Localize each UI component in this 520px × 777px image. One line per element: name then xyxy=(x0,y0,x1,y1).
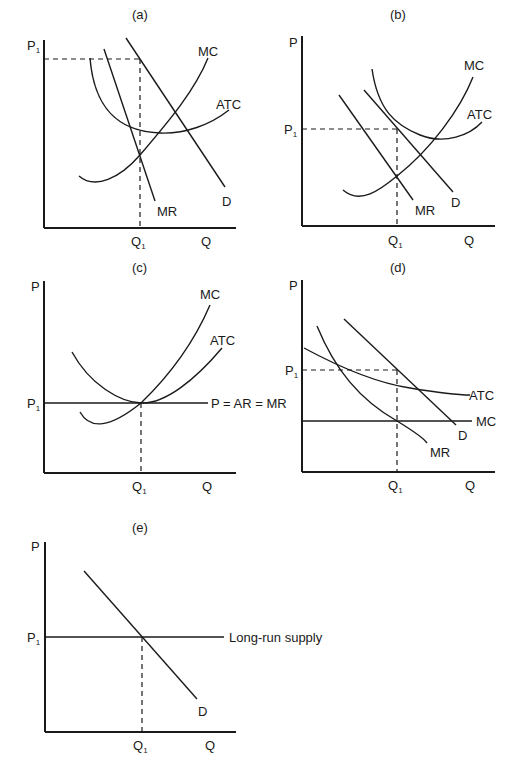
panel-d-demand-curve xyxy=(344,319,456,425)
panel-c-title: (c) xyxy=(132,260,147,275)
panel-d-q-label: Q xyxy=(465,478,475,493)
panel-c-mc-curve xyxy=(80,305,210,424)
panel-a-p1-label: P1 xyxy=(27,38,41,55)
panel-b: (b) P P1 MR D ATC MC Q1 Q xyxy=(284,7,495,250)
panel-a: (a) P1 D MR ATC MC Q1 Q xyxy=(27,7,241,251)
panel-a-atc-label: ATC xyxy=(216,97,241,112)
panel-a-title: (a) xyxy=(132,7,148,22)
market-structures-figure: (a) P1 D MR ATC MC Q1 Q (b) P P1 MR D xyxy=(0,0,520,777)
panel-e-p-label: P xyxy=(31,539,40,554)
panel-d: (d) P P1 MC ATC D MR Q1 Q xyxy=(285,260,496,495)
panel-d-atc-curve xyxy=(304,348,470,395)
panel-c: (c) P P1 P = AR = MR ATC MC Q1 Q xyxy=(27,260,287,496)
panel-a-mr-label: MR xyxy=(157,204,177,219)
panel-a-q1-label: Q1 xyxy=(131,234,146,251)
panel-e: (e) P P1 Long-run supply D Q1 Q xyxy=(27,520,323,755)
panel-d-p1-label: P1 xyxy=(285,363,299,380)
panel-a-mc-curve xyxy=(79,58,208,182)
panel-c-p-label: P xyxy=(31,279,40,294)
panel-c-p1-label: P1 xyxy=(27,396,41,413)
panel-c-atc-curve xyxy=(72,348,222,403)
panel-a-q-label: Q xyxy=(201,234,211,249)
panel-e-d-label: D xyxy=(198,704,207,719)
panel-d-q1-label: Q1 xyxy=(388,478,403,495)
panel-d-mr-curve xyxy=(317,326,427,443)
panel-b-atc-label: ATC xyxy=(467,107,492,122)
panel-e-q-label: Q xyxy=(205,738,215,753)
panel-b-mr-curve xyxy=(339,95,413,200)
panel-d-mc-label: MC xyxy=(476,414,496,429)
panel-b-title: (b) xyxy=(390,7,406,22)
panel-b-mc-label: MC xyxy=(464,58,484,73)
panel-e-p1-label: P1 xyxy=(27,630,41,647)
panel-c-price-line-label: P = AR = MR xyxy=(211,396,287,411)
panel-d-d-label: D xyxy=(458,428,467,443)
panel-a-d-label: D xyxy=(222,194,231,209)
panel-c-q-label: Q xyxy=(202,479,212,494)
panel-c-atc-label: ATC xyxy=(210,333,235,348)
panel-b-mc-curve xyxy=(343,77,473,196)
panel-e-supply-label: Long-run supply xyxy=(229,630,323,645)
panel-b-q-label: Q xyxy=(464,233,474,248)
panel-c-q1-label: Q1 xyxy=(132,479,147,496)
panel-d-title: (d) xyxy=(390,260,406,275)
panel-e-title: (e) xyxy=(132,520,148,535)
panel-a-mc-label: MC xyxy=(198,44,218,59)
panel-e-q1-label: Q1 xyxy=(133,738,148,755)
panel-c-mc-label: MC xyxy=(200,287,220,302)
panel-d-mr-label: MR xyxy=(430,445,450,460)
panel-d-p-label: P xyxy=(289,278,298,293)
panel-b-demand-curve xyxy=(364,90,453,192)
panel-b-p-label: P xyxy=(289,35,298,50)
panel-b-p1-label: P1 xyxy=(284,122,298,139)
panel-b-d-label: D xyxy=(451,195,460,210)
panel-b-atc-curve xyxy=(372,69,482,139)
panel-d-atc-label: ATC xyxy=(469,388,494,403)
panel-e-demand-curve xyxy=(84,571,197,699)
panel-b-q1-label: Q1 xyxy=(388,233,403,250)
panel-b-mr-label: MR xyxy=(415,203,435,218)
